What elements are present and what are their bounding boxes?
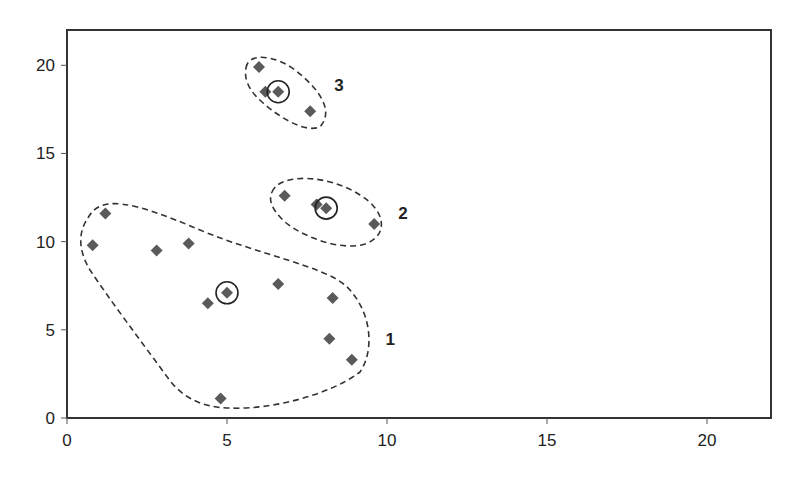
x-tick-label: 0	[62, 431, 71, 450]
data-point-diamond	[279, 190, 291, 202]
plot-frame	[67, 30, 771, 418]
data-point-diamond	[99, 207, 111, 219]
cluster-1: 1	[81, 204, 395, 409]
cluster-label: 1	[385, 330, 394, 349]
cluster-3: 3	[246, 57, 344, 128]
cluster-label: 2	[398, 204, 407, 223]
data-point-diamond	[327, 292, 339, 304]
data-point-diamond	[323, 333, 335, 345]
data-point-diamond	[87, 239, 99, 251]
data-point-diamond	[272, 86, 284, 98]
cluster-outline	[81, 204, 369, 409]
data-point-diamond	[346, 354, 358, 366]
data-point-diamond	[320, 202, 332, 214]
data-point-diamond	[202, 297, 214, 309]
x-tick-label: 15	[538, 431, 557, 450]
cluster-label: 3	[334, 76, 343, 95]
y-tick-label: 10	[36, 233, 55, 252]
data-point-diamond	[183, 237, 195, 249]
y-tick-label: 20	[36, 56, 55, 75]
x-tick-label: 10	[378, 431, 397, 450]
y-tick-label: 5	[46, 321, 55, 340]
y-tick-label: 0	[46, 409, 55, 428]
data-point-diamond	[151, 244, 163, 256]
y-tick-label: 15	[36, 144, 55, 163]
data-point-diamond	[259, 86, 271, 98]
data-point-diamond	[221, 287, 233, 299]
data-point-diamond	[215, 393, 227, 405]
data-point-diamond	[253, 61, 265, 73]
data-point-diamond	[272, 278, 284, 290]
cluster-2: 2	[271, 178, 408, 246]
x-tick-label: 5	[222, 431, 231, 450]
data-point-diamond	[304, 105, 316, 117]
data-point-diamond	[368, 218, 380, 230]
x-tick-label: 20	[698, 431, 717, 450]
cluster-scatter-chart: 0510152005101520123	[0, 0, 794, 481]
